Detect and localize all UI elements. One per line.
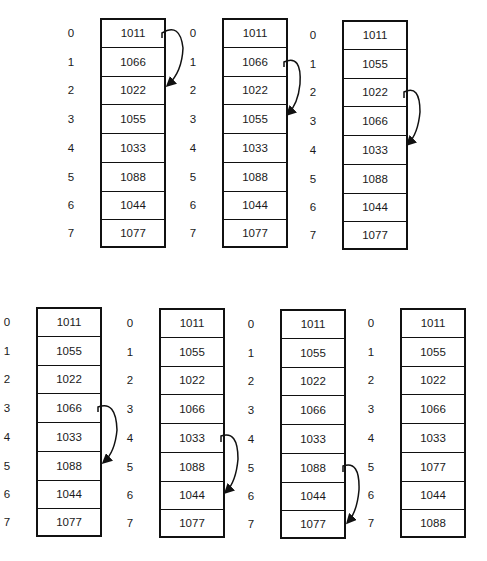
index-label: 6	[306, 201, 320, 213]
array-cell: 31066	[159, 394, 225, 423]
cell-value: 1033	[420, 432, 446, 444]
array-cell: 61044	[342, 193, 408, 222]
index-label: 2	[64, 84, 78, 96]
cell-value: 1077	[120, 227, 146, 239]
cell-value: 1088	[56, 460, 82, 472]
cell-value: 1088	[300, 462, 326, 474]
index-label: 0	[0, 316, 14, 328]
cell-value: 1077	[179, 517, 205, 529]
cell-value: 1088	[120, 171, 146, 183]
array-cell: 01011	[400, 308, 466, 337]
cell-value: 1077	[362, 229, 388, 241]
index-label: 2	[364, 374, 378, 386]
array-state-4: 01011 11055 21022 31066 41033 51088 6104…	[36, 307, 102, 537]
index-label: 6	[64, 199, 78, 211]
array-cell: 11066	[100, 47, 166, 76]
index-label: 1	[244, 347, 258, 359]
array-cell: 11055	[400, 337, 466, 366]
array-cell: 61044	[222, 191, 288, 220]
array-cell: 01011	[280, 309, 346, 338]
cell-value: 1088	[179, 461, 205, 473]
cell-value: 1044	[56, 488, 82, 500]
cell-value: 1088	[242, 171, 268, 183]
cell-value: 1077	[300, 518, 326, 530]
array-cell: 51077	[400, 452, 466, 481]
array-cell: 41033	[342, 135, 408, 164]
index-label: 7	[123, 517, 137, 529]
array-cell: 71088	[400, 509, 466, 538]
array-cell: 31066	[36, 393, 102, 422]
array-cell: 71077	[36, 508, 102, 537]
index-label: 6	[364, 489, 378, 501]
array-cell: 11055	[280, 338, 346, 367]
index-label: 1	[364, 346, 378, 358]
cell-value: 1077	[56, 516, 82, 528]
index-label: 3	[306, 115, 320, 127]
index-label: 5	[244, 462, 258, 474]
index-label: 1	[64, 56, 78, 68]
index-label: 3	[0, 402, 14, 414]
index-label: 7	[186, 227, 200, 239]
cell-value: 1044	[300, 490, 326, 502]
cell-value: 1033	[120, 142, 146, 154]
cell-value: 1022	[56, 373, 82, 385]
cell-value: 1022	[120, 84, 146, 96]
cell-value: 1066	[242, 56, 268, 68]
array-cell: 01011	[159, 308, 225, 337]
cell-value: 1022	[242, 84, 268, 96]
cell-value: 1011	[363, 29, 388, 41]
index-label: 7	[244, 518, 258, 530]
array-state-6: 01011 11055 21022 31066 41033 51088 6104…	[280, 309, 346, 539]
index-label: 6	[123, 489, 137, 501]
array-cell: 41033	[400, 423, 466, 452]
array-cell: 71077	[222, 219, 288, 248]
index-label: 6	[0, 488, 14, 500]
cell-value: 1033	[242, 142, 268, 154]
array-cell: 41033	[100, 133, 166, 162]
array-cell: 01011	[36, 307, 102, 336]
array-cell: 51088	[100, 162, 166, 191]
index-label: 6	[244, 490, 258, 502]
index-label: 6	[186, 199, 200, 211]
cell-value: 1022	[362, 86, 388, 98]
cell-value: 1044	[179, 489, 205, 501]
cell-value: 1011	[301, 318, 326, 330]
index-label: 0	[244, 318, 258, 330]
cell-value: 1022	[179, 374, 205, 386]
index-label: 7	[64, 227, 78, 239]
cell-value: 1066	[56, 402, 82, 414]
array-cell: 61044	[100, 191, 166, 220]
index-label: 5	[64, 171, 78, 183]
array-cell: 71077	[100, 219, 166, 248]
array-cell: 21022	[400, 366, 466, 395]
array-cell: 21022	[280, 367, 346, 396]
index-label: 0	[64, 27, 78, 39]
cell-value: 1011	[421, 317, 446, 329]
index-label: 0	[186, 27, 200, 39]
index-label: 1	[123, 346, 137, 358]
cell-value: 1011	[243, 27, 268, 39]
array-cell: 31066	[280, 395, 346, 424]
array-cell: 51088	[159, 452, 225, 481]
array-cell: 41033	[36, 422, 102, 451]
array-state-7: 01011 11055 21022 31066 41033 51077 6104…	[400, 308, 466, 538]
array-cell: 21022	[36, 365, 102, 394]
index-label: 1	[306, 58, 320, 70]
index-label: 3	[244, 404, 258, 416]
array-cell: 71077	[342, 221, 408, 250]
array-cell: 51088	[342, 164, 408, 193]
array-cell: 51088	[280, 453, 346, 482]
index-label: 4	[0, 431, 14, 443]
array-cell: 11055	[159, 337, 225, 366]
cell-value: 1044	[120, 199, 146, 211]
index-label: 3	[364, 403, 378, 415]
index-label: 0	[306, 29, 320, 41]
array-cell: 11055	[36, 336, 102, 365]
array-cell: 21022	[222, 76, 288, 105]
array-state-5: 01011 11055 21022 31066 41033 51088 6104…	[159, 308, 225, 538]
index-label: 3	[123, 403, 137, 415]
array-cell: 61044	[280, 482, 346, 511]
array-cell: 11066	[222, 47, 288, 76]
cell-value: 1066	[300, 404, 326, 416]
cell-value: 1055	[242, 113, 268, 125]
